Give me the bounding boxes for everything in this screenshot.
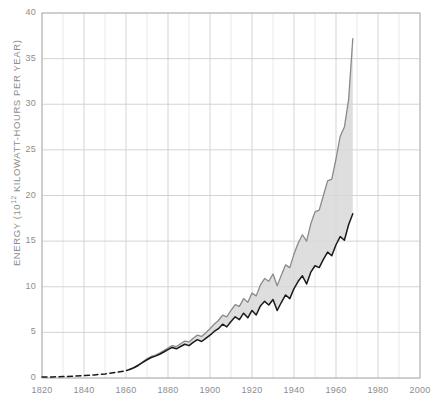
- y-tick-label: 10: [8, 281, 36, 291]
- lower-bound-line-dashed: [42, 369, 130, 377]
- upper-bound-line: [130, 39, 353, 370]
- y-tick-label: 25: [8, 144, 36, 154]
- uncertainty-band: [42, 39, 353, 378]
- x-tick-label: 1940: [278, 385, 310, 395]
- x-tick-label: 1920: [236, 385, 268, 395]
- x-tick-label: 1840: [68, 385, 100, 395]
- x-tick-label: 1960: [320, 385, 352, 395]
- y-tick-label: 40: [8, 7, 36, 17]
- plot-canvas: [0, 0, 434, 413]
- x-tick-label: 1900: [194, 385, 226, 395]
- x-tick-label: 1860: [110, 385, 142, 395]
- x-tick-label: 1820: [26, 385, 58, 395]
- x-tick-label: 2000: [404, 385, 434, 395]
- y-tick-label: 0: [8, 372, 36, 382]
- x-tick-label: 1980: [362, 385, 394, 395]
- y-tick-label: 30: [8, 98, 36, 108]
- y-tick-label: 5: [8, 326, 36, 336]
- y-tick-label: 15: [8, 235, 36, 245]
- y-tick-label: 35: [8, 53, 36, 63]
- x-tick-label: 1880: [152, 385, 184, 395]
- energy-chart: ENERGY (1012 KILOWATT-HOURS PER YEAR) 05…: [0, 0, 434, 413]
- y-tick-label: 20: [8, 190, 36, 200]
